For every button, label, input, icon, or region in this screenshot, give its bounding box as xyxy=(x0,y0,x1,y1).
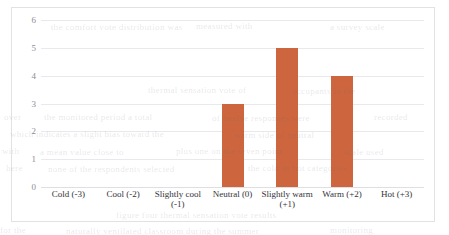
x-axis-label-cold: Cold (-3) xyxy=(41,189,96,210)
x-axis-label-slightly-cool: Slightly cool (-1) xyxy=(150,189,205,210)
y-axis-tick-4: 4 xyxy=(32,71,37,80)
x-axis-label-hot: Hot (+3) xyxy=(369,189,424,210)
bar-slightly-warm[interactable] xyxy=(276,48,298,187)
bar-series xyxy=(41,20,424,187)
y-axis-tick-1: 1 xyxy=(32,155,37,164)
bar-slot-neutral xyxy=(205,20,260,187)
bar-slot-slightly-warm xyxy=(260,20,315,187)
gridline-0-baseline xyxy=(41,187,424,188)
x-axis-label-cool: Cool (-2) xyxy=(96,189,151,210)
bar-slot-warm xyxy=(315,20,370,187)
bar-slot-hot xyxy=(369,20,424,187)
y-axis-tick-0: 0 xyxy=(32,183,37,192)
y-axis: 6 5 4 3 2 1 0 xyxy=(12,20,41,187)
y-axis-tick-2: 2 xyxy=(32,127,37,136)
chart-container: 6 5 4 3 2 1 0 Cold (-3) Cool (-2) Slight… xyxy=(11,7,435,222)
x-axis: Cold (-3) Cool (-2) Slightly cool (-1) N… xyxy=(41,189,424,210)
y-axis-tick-3: 3 xyxy=(32,99,37,108)
bar-slot-cold xyxy=(41,20,96,187)
plot-area xyxy=(41,20,424,187)
x-axis-label-neutral: Neutral (0) xyxy=(205,189,260,210)
bar-slot-cool xyxy=(96,20,151,187)
bar-warm[interactable] xyxy=(331,76,353,187)
bar-slot-slightly-cool xyxy=(150,20,205,187)
x-axis-label-warm: Warm (+2) xyxy=(315,189,370,210)
x-axis-label-slightly-warm: Slightly warm (+1) xyxy=(260,189,315,210)
y-axis-tick-6: 6 xyxy=(32,16,37,25)
y-axis-tick-5: 5 xyxy=(32,43,37,52)
bar-neutral[interactable] xyxy=(222,104,244,188)
